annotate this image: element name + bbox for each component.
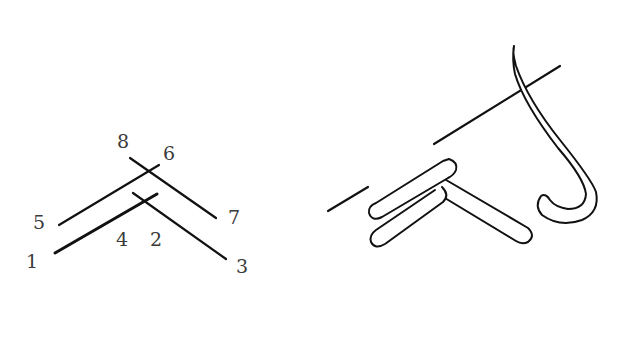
stitch-line-8-7	[130, 158, 216, 218]
thread-line-short	[328, 187, 368, 211]
right-needle-figure	[328, 46, 597, 247]
label-6: 6	[163, 144, 175, 163]
label-5: 5	[33, 213, 45, 232]
label-2: 2	[150, 230, 162, 249]
label-3: 3	[236, 257, 248, 276]
left-stitch-figure	[55, 158, 226, 259]
label-8: 8	[117, 132, 129, 151]
stitch-line-1-2	[55, 194, 157, 253]
thread-line-long	[434, 66, 560, 144]
stitch-line-4-3	[133, 193, 226, 259]
label-4: 4	[116, 230, 128, 249]
stitch-diagram: 1 2 3 4 5 6 7 8	[0, 0, 630, 341]
label-1: 1	[26, 252, 38, 271]
stitch-bar-diagonal	[435, 177, 532, 243]
diagram-drawing	[0, 0, 630, 341]
label-7: 7	[228, 208, 240, 227]
needle-icon	[513, 46, 597, 223]
stitch-line-5-6	[59, 165, 159, 225]
